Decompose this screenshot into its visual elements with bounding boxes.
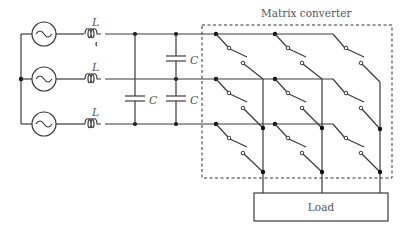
bidirectional-switch bbox=[273, 32, 322, 79]
load-label: Load bbox=[308, 201, 335, 213]
matrix-converter-title: Matrix converter bbox=[261, 7, 352, 19]
inductor-icon bbox=[85, 74, 101, 83]
capacitor-label: C bbox=[190, 94, 199, 107]
bidirectional-switch bbox=[273, 77, 322, 128]
ac-source-icon bbox=[32, 67, 56, 91]
inductor-label: L bbox=[91, 16, 99, 29]
bidirectional-switch bbox=[273, 122, 322, 172]
capacitor-icon bbox=[166, 56, 186, 61]
inductor-label: L bbox=[91, 106, 99, 119]
capacitor-label: C bbox=[149, 94, 158, 107]
ac-source-icon bbox=[32, 112, 56, 136]
bidirectional-switch bbox=[214, 32, 263, 79]
bidirectional-switch bbox=[344, 91, 380, 129]
bidirectional-switch bbox=[214, 122, 263, 172]
matrix-converter-diagram: L L L C C C Matrix converter bbox=[0, 0, 410, 234]
capacitor-icon bbox=[166, 96, 186, 101]
bidirectional-switch bbox=[214, 77, 263, 128]
inductor-label: L bbox=[91, 61, 99, 74]
bidirectional-switch bbox=[344, 46, 380, 82]
ac-source-icon bbox=[32, 22, 56, 46]
inductor-icon bbox=[85, 119, 101, 128]
capacitor-label: C bbox=[190, 54, 199, 67]
bidirectional-switch bbox=[344, 136, 380, 172]
capacitor-icon bbox=[125, 96, 145, 101]
